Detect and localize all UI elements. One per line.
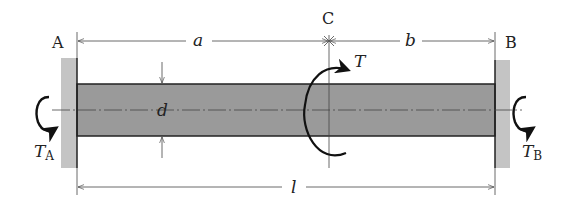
label-dim-a: a <box>193 30 203 50</box>
label-point-b: B <box>505 33 517 52</box>
label-dim-d: d <box>157 100 168 120</box>
label-point-c: C <box>322 9 334 28</box>
shaft-diagram: A C B a b l d T TA TB <box>0 0 573 209</box>
right-wall-support <box>495 60 510 168</box>
reaction-torque-a-icon <box>37 97 56 130</box>
label-torque-ta: TA <box>34 141 54 163</box>
label-dim-b: b <box>405 30 416 50</box>
reaction-torque-b-icon <box>514 97 533 130</box>
left-wall-support <box>61 58 77 168</box>
label-point-a: A <box>51 33 64 52</box>
label-torque-tb: TB <box>522 141 542 163</box>
label-dim-l: l <box>291 177 296 197</box>
label-torque-t: T <box>354 51 367 71</box>
